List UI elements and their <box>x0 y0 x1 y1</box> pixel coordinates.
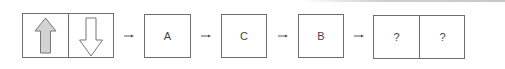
top-border-line <box>300 0 505 2</box>
step-box-c: C <box>221 14 267 58</box>
start-panel <box>22 13 114 58</box>
connector-arrow-icon <box>277 30 289 42</box>
unknown-label: ? <box>420 31 465 43</box>
connector-arrow-icon <box>200 30 212 42</box>
answer-panel-right-cell: ? <box>420 16 465 58</box>
arrow-down-icon <box>69 14 114 57</box>
answer-panel-left-cell: ? <box>374 16 419 58</box>
step-box-a: A <box>144 14 191 58</box>
step-label: B <box>299 30 343 42</box>
start-panel-left-cell <box>23 14 68 57</box>
arrow-up-icon <box>23 14 68 57</box>
step-label: C <box>222 30 266 42</box>
unknown-label: ? <box>374 31 419 43</box>
step-box-b: B <box>298 14 344 58</box>
start-panel-right-cell <box>69 14 114 57</box>
connector-arrow-icon <box>353 30 365 42</box>
step-label: A <box>145 30 190 42</box>
connector-arrow-icon <box>123 30 135 42</box>
answer-panel: ? ? <box>373 15 465 59</box>
